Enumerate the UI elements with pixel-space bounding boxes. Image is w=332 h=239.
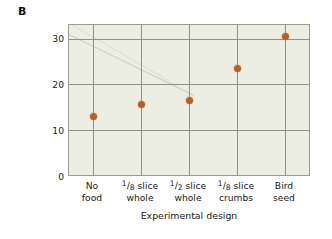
x-tick-line-2: seed bbox=[253, 192, 315, 204]
fraction-denominator: 8 bbox=[226, 183, 231, 192]
chart-figure: B Pioneer's chirrup rate (per minute) 0 … bbox=[0, 0, 332, 239]
gridline-x-eighth-crumbs bbox=[237, 25, 238, 175]
y-tick-label-20: 20 bbox=[42, 80, 64, 89]
fraction-denominator: 8 bbox=[130, 183, 135, 192]
x-axis-title: Experimental design bbox=[68, 210, 310, 221]
gridline-x-bird-seed bbox=[285, 25, 286, 175]
x-tick-line-1: No bbox=[86, 180, 99, 191]
x-tick-line-1: Bird bbox=[275, 180, 293, 191]
y-axis-tick-labels: 0 10 20 30 bbox=[42, 0, 64, 239]
data-point-eighth-slice-crumbs bbox=[234, 65, 241, 72]
plot-area bbox=[68, 24, 310, 176]
x-tick-label-bird-seed: Bird seed bbox=[253, 180, 315, 203]
fraction-denominator: 2 bbox=[178, 183, 183, 192]
fraction-one-eighth: 1/8 bbox=[122, 180, 135, 192]
data-point-eighth-slice-whole bbox=[138, 101, 145, 108]
fraction-one-eighth: 1/8 bbox=[218, 180, 231, 192]
panel-label: B bbox=[18, 6, 27, 17]
gridline-x-no-food bbox=[93, 25, 94, 175]
data-point-half-slice-whole bbox=[186, 97, 193, 104]
x-tick-line-1: slice bbox=[186, 180, 207, 191]
x-tick-line-1: slice bbox=[234, 180, 255, 191]
data-point-bird-seed bbox=[282, 33, 289, 40]
y-tick-label-30: 30 bbox=[42, 34, 64, 43]
data-point-no-food bbox=[90, 113, 97, 120]
x-axis-tick-labels: No food 1/8 slice whole 1/2 slice whole … bbox=[68, 180, 310, 210]
fraction-one-half: 1/2 bbox=[170, 180, 183, 192]
y-tick-label-10: 10 bbox=[42, 126, 64, 135]
x-tick-line-1: slice bbox=[138, 180, 159, 191]
scan-artifact-line-secondary bbox=[73, 25, 177, 86]
